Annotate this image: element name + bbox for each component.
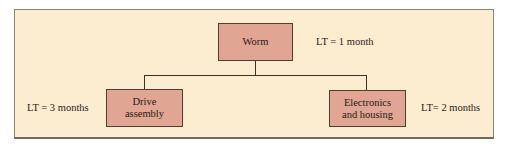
lead-time-drive-assembly: LT = 3 months	[27, 102, 89, 113]
connector-drop-drive-assembly	[144, 75, 145, 90]
connector-drop-electronics-housing	[366, 75, 367, 90]
node-worm: Worm	[218, 23, 293, 61]
node-electronics-housing-label: Electronics and housing	[342, 97, 393, 121]
node-drive-assembly-label: Drive assembly	[125, 96, 164, 120]
connector-horizontal-bar	[144, 75, 367, 76]
connector-root-stem	[255, 60, 256, 76]
node-worm-label: Worm	[243, 36, 269, 48]
lead-time-electronics-housing: LT= 2 months	[421, 102, 480, 113]
node-electronics-housing: Electronics and housing	[329, 90, 406, 127]
lead-time-worm: LT = 1 month	[316, 36, 374, 47]
node-drive-assembly: Drive assembly	[106, 89, 183, 127]
